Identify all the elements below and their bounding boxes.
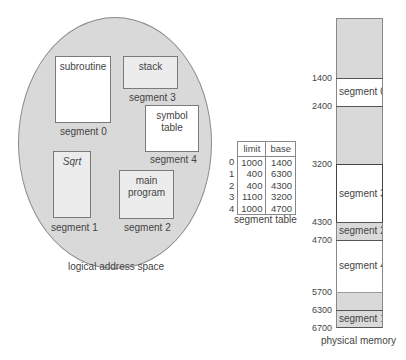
segment-table: limit base 0 1000 1400 1 400 6300 2 400 … — [226, 141, 296, 215]
segment-3-label: segment 3 — [129, 92, 176, 103]
boundary-line — [336, 310, 383, 311]
boundary-line — [336, 240, 383, 241]
segment-2-content-line2: program — [120, 187, 173, 199]
memory-segment-2: segment 2 — [336, 223, 383, 240]
address-3200: 3200 — [302, 159, 332, 169]
free-memory-2 — [336, 292, 383, 310]
table-row: 4 1000 4700 — [226, 203, 296, 215]
table-row: 2 400 4300 — [226, 180, 296, 192]
header-limit: limit — [238, 142, 266, 157]
segment-2-box: main program — [119, 170, 174, 219]
segment-0-content: subroutine — [60, 61, 107, 72]
table-row: 3 1100 3200 — [226, 191, 296, 203]
address-1400: 1400 — [302, 73, 332, 83]
logical-address-space-caption: logical address space — [68, 261, 164, 272]
address-5700: 5700 — [302, 287, 332, 297]
free-memory-1 — [336, 106, 383, 164]
segment-3-content: stack — [139, 61, 162, 72]
address-4700: 4700 — [302, 235, 332, 245]
address-6700: 6700 — [302, 323, 332, 333]
segment-2-label: segment 2 — [124, 222, 171, 233]
segment-3-box: stack — [123, 56, 178, 89]
table-row: 0 1000 1400 — [226, 156, 296, 168]
header-base: base — [266, 142, 296, 157]
address-6300: 6300 — [302, 305, 332, 315]
segment-4-label: segment 4 — [150, 154, 197, 165]
segment-1-label: segment 1 — [51, 222, 98, 233]
segment-4-content-line2: table — [146, 122, 198, 134]
memory-segment-4: segment 4 — [336, 240, 383, 292]
segment-0-box: subroutine — [55, 56, 111, 123]
table-row: 1 400 6300 — [226, 168, 296, 180]
segment-4-box: symbol table — [145, 105, 199, 152]
segment-1-content: Sqrt — [63, 156, 81, 167]
free-memory-0 — [336, 18, 383, 78]
memory-segment-3: segment 3 — [336, 164, 383, 223]
boundary-line — [336, 106, 383, 107]
memory-segment-0: segment 0 — [336, 78, 383, 106]
boundary-line — [336, 78, 383, 79]
segment-2-content-line1: main — [120, 175, 173, 187]
address-2400: 2400 — [302, 101, 332, 111]
segment-table-caption: segment table — [234, 214, 297, 225]
address-4300: 4300 — [302, 217, 332, 227]
segment-1-box: Sqrt — [53, 151, 91, 218]
physical-memory-caption: physical memory — [321, 335, 396, 346]
segment-0-label: segment 0 — [60, 126, 107, 137]
memory-segment-1: segment 1 — [336, 310, 383, 328]
segment-4-content-line1: symbol — [146, 110, 198, 122]
boundary-line — [336, 222, 383, 223]
boundary-line — [336, 292, 383, 293]
